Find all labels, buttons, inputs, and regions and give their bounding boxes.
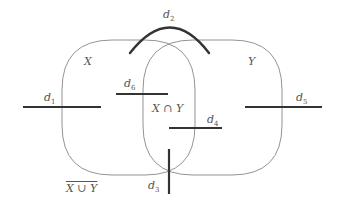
label-d3: d3: [148, 180, 160, 194]
label-complement: X ∪ Y: [66, 183, 97, 194]
label-d5: d5: [296, 92, 308, 106]
label-d6: d6: [124, 78, 136, 92]
label-set-y: Y: [248, 56, 255, 67]
label-d2: d2: [163, 9, 175, 23]
label-intersection: X ∩ Y: [152, 103, 183, 114]
label-d4: d4: [207, 114, 219, 128]
segment-d2: [130, 28, 209, 54]
label-set-x: X: [84, 56, 92, 67]
label-d1: d1: [44, 92, 56, 106]
